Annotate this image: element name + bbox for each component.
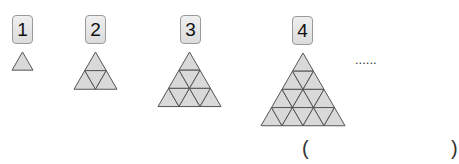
triangle-figure-4	[261, 53, 345, 126]
triangle-figure-2	[74, 52, 117, 89]
answer-close-paren: )	[451, 137, 458, 160]
answer-open-paren: (	[302, 137, 309, 160]
triangle-figures	[0, 0, 459, 164]
triangle-figure-1	[12, 52, 33, 70]
triangle-figure-3	[158, 52, 221, 107]
ellipsis: ......	[355, 52, 377, 67]
